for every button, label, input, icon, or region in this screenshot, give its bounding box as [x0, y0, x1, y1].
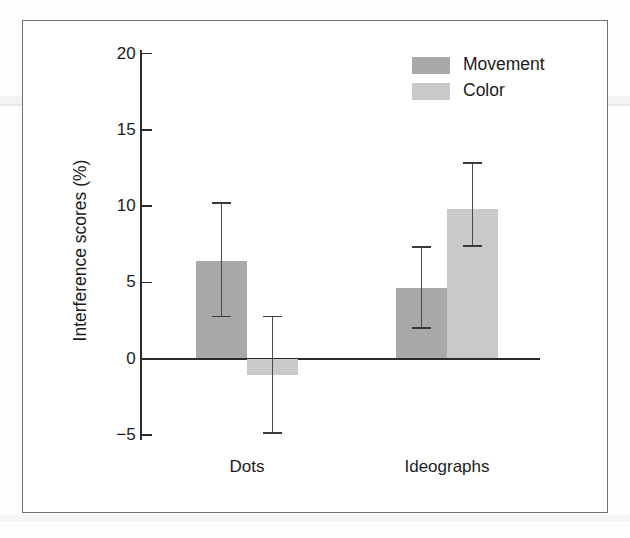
y-tick-0	[141, 358, 152, 360]
y-tick-label--5: −5	[76, 426, 136, 443]
y-tick-15	[141, 129, 152, 131]
y-tick-label-15: 15	[76, 121, 136, 138]
errorbar-cap-lower-dots-movement	[212, 316, 231, 318]
y-tick-label-5: 5	[76, 273, 136, 290]
errorbar-cap-lower-ideographs-movement	[412, 327, 431, 329]
legend-item-movement: Movement	[412, 52, 545, 78]
errorbar-cap-lower-dots-color	[263, 432, 282, 434]
y-axis-title: Interference scores (%)	[70, 141, 91, 361]
errorbar-cap-upper-dots-movement	[212, 202, 231, 204]
errorbar-stem-dots-color	[272, 317, 274, 434]
legend-label-movement: Movement	[463, 56, 545, 74]
figure-root: Interference scores (%) −505101520 DotsI…	[0, 0, 630, 538]
x-category-label-ideographs: Ideographs	[367, 457, 527, 477]
y-tick-5	[141, 282, 152, 284]
y-tick-label-0: 0	[76, 350, 136, 367]
legend-swatch-movement	[412, 57, 450, 74]
legend-item-color: Color	[412, 78, 545, 104]
legend-label-color: Color	[463, 82, 505, 100]
x-category-label-dots: Dots	[167, 457, 327, 477]
errorbar-cap-lower-ideographs-color	[463, 245, 482, 247]
bar-chart-plot-area: Interference scores (%) −505101520 DotsI…	[0, 0, 630, 538]
y-tick-20	[141, 53, 152, 55]
y-tick-label-20: 20	[76, 45, 136, 62]
errorbar-cap-upper-ideographs-movement	[412, 246, 431, 248]
errorbar-stem-ideographs-movement	[421, 247, 423, 328]
y-tick-label-10: 10	[76, 197, 136, 214]
errorbar-stem-dots-movement	[221, 203, 223, 317]
y-tick--5	[141, 434, 152, 436]
y-axis-line	[140, 50, 142, 440]
errorbar-stem-ideographs-color	[472, 163, 474, 245]
errorbar-cap-upper-dots-color	[263, 316, 282, 318]
y-tick-10	[141, 205, 152, 207]
legend-swatch-color	[412, 83, 450, 100]
chart-legend: Movement Color	[412, 52, 545, 104]
errorbar-cap-upper-ideographs-color	[463, 162, 482, 164]
